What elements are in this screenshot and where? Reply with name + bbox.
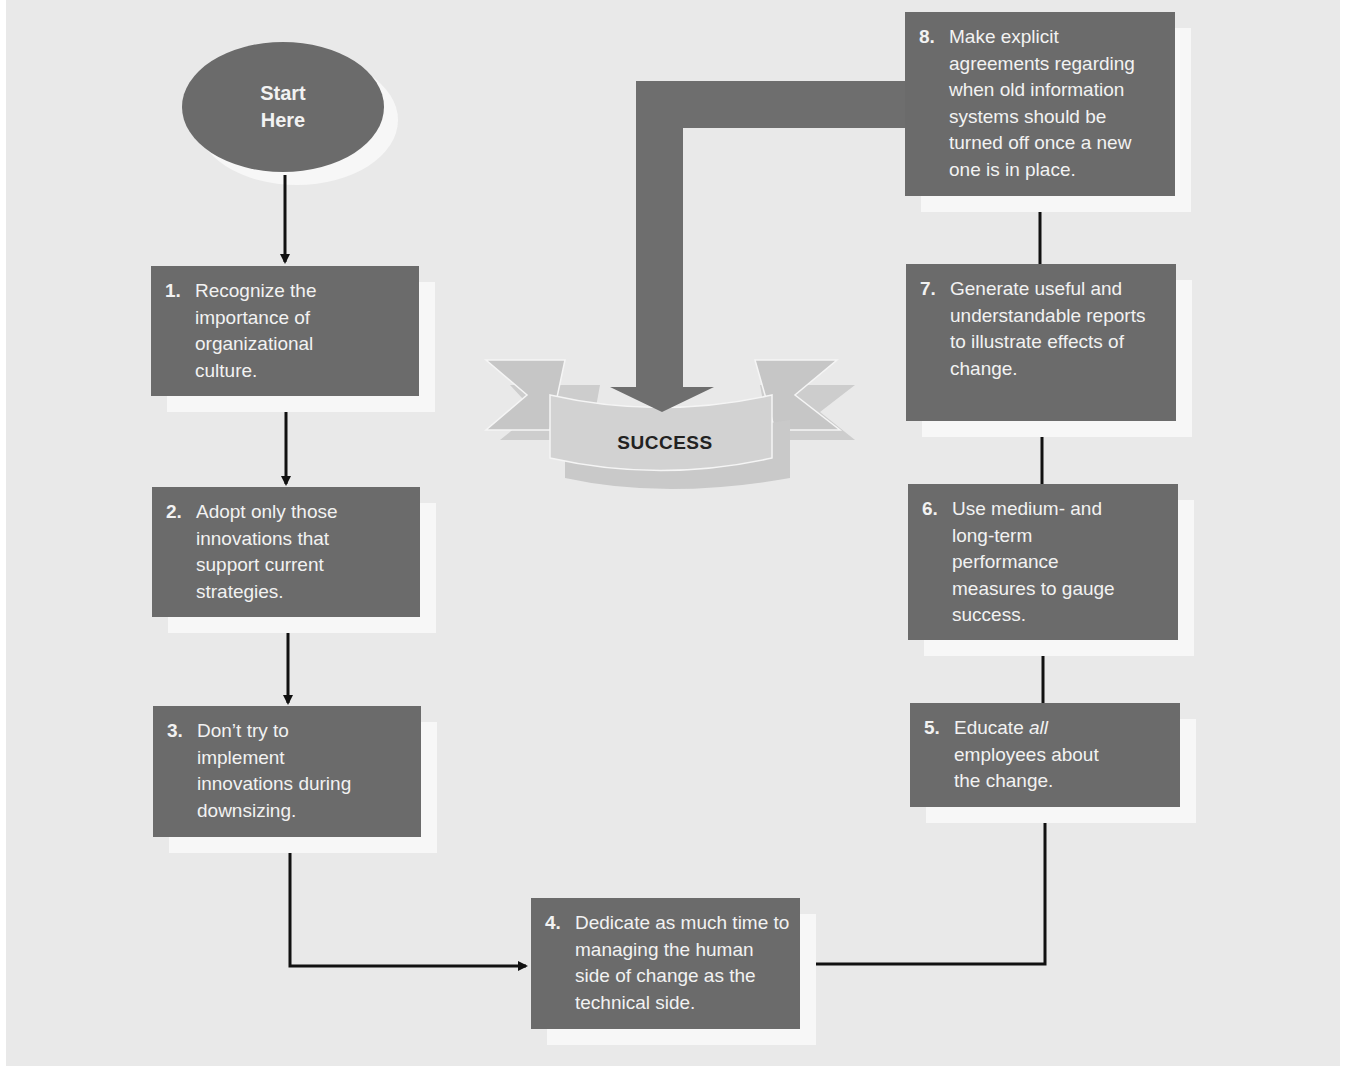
step-text-after: employees about the change. <box>954 744 1099 792</box>
step-text: Educate all employees about the change. <box>954 715 1129 795</box>
step-6-box: 6. Use medium- and long-term performance… <box>908 484 1178 640</box>
step-number: 3. <box>167 718 195 745</box>
step-4-box: 4. Dedicate as much time to managing the… <box>531 898 800 1029</box>
step-number: 4. <box>545 910 573 937</box>
step-number: 2. <box>166 499 194 526</box>
step-number: 1. <box>165 278 193 305</box>
start-label-line1: Start <box>183 80 383 107</box>
success-label: SUCCESS <box>580 432 750 454</box>
step-text: Use medium- and long-term performance me… <box>952 496 1142 629</box>
step-text: Don’t try to implement innovations durin… <box>197 718 377 824</box>
arrow-3-to-4 <box>290 838 526 966</box>
step-text: Make explicit agreements regarding when … <box>949 24 1159 183</box>
step-number: 7. <box>920 276 948 303</box>
step-8-box: 8. Make explicit agreements regarding wh… <box>905 12 1175 196</box>
step-5-box: 5. Educate all employees about the chang… <box>910 703 1180 807</box>
step-text: Dedicate as much time to managing the hu… <box>575 910 790 1016</box>
step-text: Generate useful and understandable repor… <box>950 276 1155 382</box>
start-label: Start Here <box>183 80 383 134</box>
step-text-before: Educate <box>954 717 1029 738</box>
step-1-box: 1. Recognize the importance of organizat… <box>151 266 419 396</box>
step-number: 8. <box>919 24 947 51</box>
arrow-4-to-5 <box>800 813 1045 964</box>
step-3-box: 3. Don’t try to implement innovations du… <box>153 706 421 837</box>
step-7-box: 7. Generate useful and understandable re… <box>906 264 1176 421</box>
step-text-emphasis: all <box>1029 717 1048 738</box>
step-number: 5. <box>924 715 952 742</box>
step-text: Adopt only those innovations that suppor… <box>196 499 366 605</box>
step-2-box: 2. Adopt only those innovations that sup… <box>152 487 420 617</box>
start-label-line2: Here <box>183 107 383 134</box>
step-number: 6. <box>922 496 950 523</box>
step-text: Recognize the importance of organization… <box>195 278 365 384</box>
